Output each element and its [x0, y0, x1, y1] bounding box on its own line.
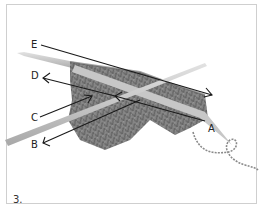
label-e: E [31, 40, 37, 50]
label-a: A [208, 124, 215, 134]
label-c: C [31, 113, 38, 123]
label-b: B [31, 140, 38, 150]
label-d: D [31, 71, 39, 81]
knitting-illustration [0, 0, 262, 215]
step-number: 3. [13, 194, 23, 205]
